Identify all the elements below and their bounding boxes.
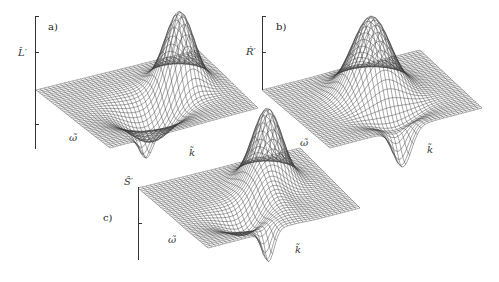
panel-c: c) Ŝ′ ω̃ k̃ bbox=[0, 0, 499, 282]
surface-mesh-c bbox=[0, 0, 499, 282]
